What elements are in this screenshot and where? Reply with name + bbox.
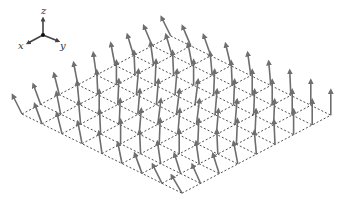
spin-arrow (195, 81, 198, 105)
spin-arrow (198, 120, 199, 144)
spin-arrow (155, 61, 156, 85)
spin-arrow (74, 64, 78, 85)
spin-arrow (236, 120, 237, 144)
spin-arrow (274, 101, 275, 125)
spin-arrow (159, 120, 160, 144)
spin-arrow (34, 85, 41, 104)
spin-arrow (140, 132, 141, 154)
spin-arrow (269, 63, 271, 86)
z-axis-label: z (40, 5, 47, 16)
spin-arrow (162, 18, 171, 36)
spin-arrow (175, 71, 177, 95)
spin-arrow (158, 143, 161, 164)
spin-arrow (79, 102, 81, 124)
spin-arrow (226, 45, 231, 66)
spin-arrow (134, 52, 135, 75)
y-axis-arrow (43, 35, 58, 41)
spin-arrow (290, 71, 291, 95)
spin-arrow (234, 81, 235, 105)
spin-arrow (54, 75, 59, 95)
spin-arrow (173, 52, 174, 75)
y-axis-label: y (59, 40, 66, 51)
x-axis-label: x (18, 40, 24, 51)
spin-arrow (78, 123, 82, 144)
spin-arrow (166, 36, 172, 56)
spin-arrow (215, 91, 217, 115)
spin-arrow (151, 43, 154, 65)
spin-arrow (188, 45, 192, 66)
spin-arrow (214, 71, 215, 95)
spin-arrow (183, 27, 191, 46)
spin-arrow (156, 81, 158, 105)
spin-arrow (254, 91, 255, 115)
spin-arrow (210, 53, 212, 75)
spin-arrow (97, 72, 98, 95)
spin-arrow (153, 165, 162, 183)
spin-arrow (99, 133, 102, 154)
spin-arrow (111, 44, 115, 65)
axes-origin-dot (41, 33, 45, 37)
spin-arrow (57, 93, 61, 114)
spin-arrow (231, 62, 232, 85)
spin-arrow (175, 155, 181, 174)
spin-arrow (93, 54, 96, 75)
spin-arrow (128, 36, 134, 56)
spin-lattice-figure: z x y (0, 0, 349, 206)
spin-arrow (100, 111, 101, 134)
spin-arrow (234, 143, 238, 164)
spin-arrow (196, 143, 199, 164)
x-axis-arrow (28, 35, 43, 43)
spin-arrow (136, 71, 138, 95)
spin-arrow (144, 27, 152, 46)
spin-arrow (255, 111, 256, 135)
spin-arrow (119, 100, 120, 124)
spin-arrow (248, 54, 251, 76)
spin-arrow (13, 96, 22, 114)
spin-arrow (118, 144, 122, 164)
coordinate-axes-icon: z x y (18, 5, 66, 51)
spin-arrow (135, 154, 142, 173)
spin-arrow (274, 121, 275, 144)
spin-arrow (216, 110, 218, 134)
spin-arrow (57, 114, 62, 134)
spin-arrow (118, 81, 119, 105)
spin-arrow (35, 105, 42, 124)
spin-arrow (193, 165, 201, 183)
spin-arrow (217, 131, 218, 154)
